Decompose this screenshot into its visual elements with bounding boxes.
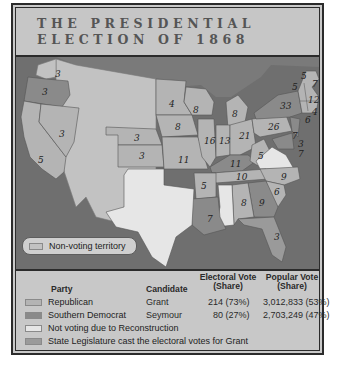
ev-california: 5: [38, 155, 44, 165]
candidate-seymour: Seymour: [146, 310, 182, 320]
popular-seymour: 2,703,249 (47%): [263, 310, 330, 320]
ev-north-carolina: 9: [281, 172, 287, 182]
legend-header-popular-line2: (Share): [277, 281, 307, 291]
legend-header-electoral: Electoral Vote (Share): [198, 273, 258, 291]
ev-iowa: 8: [175, 122, 181, 132]
ev-maryland: 7: [298, 149, 304, 159]
page-title: THE PRESIDENTIAL ELECTION OF 1868: [37, 16, 255, 48]
ev-kentucky: 11: [230, 159, 241, 169]
popular-grant: 3,012,833 (53%): [263, 297, 330, 307]
ev-tennessee: 10: [236, 172, 248, 182]
non-voting-territory-key: Non-voting territory: [22, 237, 137, 255]
title-line-2: ELECTION OF 1868: [37, 32, 249, 47]
ev-nevada: 3: [59, 129, 65, 139]
ev-wisconsin: 8: [193, 105, 199, 115]
candidate-grant: Grant: [146, 297, 169, 307]
ev-rhode-island: 4: [311, 107, 318, 117]
title-panel: THE PRESIDENTIAL ELECTION OF 1868: [16, 8, 319, 57]
legislature-swatch: [25, 338, 42, 345]
legend-header-electoral-line2: (Share): [213, 281, 243, 291]
ev-washington: 3: [55, 69, 61, 79]
non-voting-territory-label: Non-voting territory: [49, 241, 126, 251]
ev-indiana: 13: [219, 136, 231, 146]
party-southern-democrat: Southern Democrat: [48, 310, 126, 320]
ev-michigan: 8: [232, 109, 238, 119]
electoral-seymour: 80 (27%): [213, 310, 250, 320]
map-frame: THE PRESIDENTIAL ELECTION OF 1868: [11, 3, 324, 355]
state-washington: [36, 59, 56, 79]
legend-row-not-voting: Not voting due to Reconstruction: [25, 322, 179, 334]
legend-header-candidate: Candidate: [146, 285, 188, 294]
legend-row-legislature: State Legislature cast the electoral vot…: [25, 335, 248, 347]
ev-west-virginia: 5: [258, 151, 264, 161]
ev-pennsylvania: 26: [267, 122, 280, 132]
not-voting-swatch: [25, 325, 42, 332]
ev-new-york: 33: [280, 101, 292, 111]
ev-illinois: 16: [204, 136, 216, 146]
ev-connecticut: 6: [305, 115, 311, 125]
ev-alabama: 8: [241, 198, 247, 208]
ev-new-hampshire: 5: [301, 71, 307, 81]
ev-south-carolina: 6: [274, 187, 280, 197]
legend-row-republican: Republican: [25, 296, 93, 308]
ev-florida: 3: [274, 232, 280, 242]
ev-ohio: 21: [238, 131, 250, 141]
legend-header-popular: Popular Vote (Share): [261, 273, 323, 291]
republican-swatch: [25, 299, 42, 306]
electoral-grant: 214 (73%): [208, 297, 250, 307]
ev-louisiana: 7: [207, 214, 213, 224]
non-voting-territory-swatch: [29, 243, 43, 250]
state-new-york: [254, 91, 302, 119]
state-maryland-delaware: [272, 133, 294, 149]
ev-massachusetts: 12: [308, 95, 319, 105]
party-republican: Republican: [48, 297, 93, 307]
ev-minnesota: 4: [168, 99, 175, 109]
legend-header-party: Party: [51, 285, 73, 294]
party-not-voting: Not voting due to Reconstruction: [48, 323, 179, 333]
party-legislature-grant: State Legislature cast the electoral vot…: [48, 336, 248, 346]
ev-georgia: 9: [259, 198, 265, 208]
ev-arkansas: 5: [201, 181, 207, 191]
ev-kansas: 3: [139, 151, 145, 161]
ev-missouri: 11: [178, 155, 189, 165]
ev-nebraska: 3: [134, 133, 140, 143]
title-line-1: THE PRESIDENTIAL: [37, 16, 255, 31]
ev-delaware: 3: [298, 139, 304, 149]
ev-vermont: 5: [292, 82, 298, 92]
ev-maine: 7: [312, 79, 318, 89]
legend-row-southern-democrat: Southern Democrat: [25, 309, 126, 321]
ev-oregon: 3: [42, 87, 48, 97]
legend-table: Party Candidate Electoral Vote (Share) P…: [16, 271, 319, 350]
southern-democrat-swatch: [25, 312, 42, 319]
